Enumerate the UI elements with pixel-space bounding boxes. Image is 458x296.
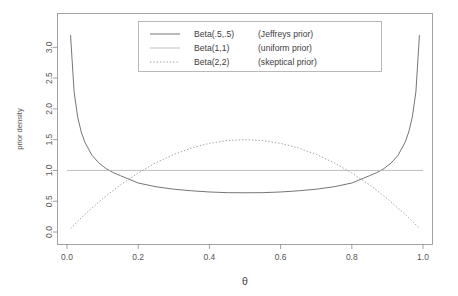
legend-series-note: (uniform prior): [258, 43, 312, 53]
legend-series-note: (Jeffreys prior): [258, 29, 313, 39]
prior-density-chart: 0.00.20.40.60.81.0 0.00.51.01.52.02.53.0…: [0, 0, 458, 296]
x-tick-label: 0.0: [61, 252, 73, 262]
chart-legend: Beta(.5,.5)(Jeffreys prior)Beta(1,1)(uni…: [139, 22, 382, 72]
y-axis-title: prior density: [15, 108, 24, 150]
y-tick-label: 3.0: [44, 41, 54, 53]
x-tick-label: 1.0: [417, 252, 429, 262]
x-tick-label: 0.4: [203, 252, 215, 262]
y-tick-label: 2.0: [44, 103, 54, 115]
y-axis-ticks: 0.00.51.01.52.02.53.0: [44, 41, 58, 238]
legend-series-name: Beta(1,1): [194, 43, 229, 53]
legend-series-name: Beta(.5,.5): [194, 29, 234, 39]
x-axis-title: θ: [242, 275, 248, 287]
series-line-beta-2-2-: [71, 140, 420, 229]
y-tick-label: 1.5: [44, 133, 54, 145]
x-tick-label: 0.2: [132, 252, 144, 262]
y-tick-label: 0.5: [44, 195, 54, 207]
legend-series-note: (skeptical prior): [258, 57, 317, 67]
x-tick-label: 0.6: [275, 252, 287, 262]
y-tick-label: 0.0: [44, 226, 54, 238]
x-tick-label: 0.8: [346, 252, 358, 262]
y-tick-label: 2.5: [44, 72, 54, 84]
x-axis-ticks: 0.00.20.40.60.81.0: [61, 244, 429, 262]
legend-series-name: Beta(2,2): [194, 57, 229, 67]
chart-canvas: 0.00.20.40.60.81.0 0.00.51.01.52.02.53.0…: [0, 0, 458, 296]
y-tick-label: 1.0: [44, 164, 54, 176]
